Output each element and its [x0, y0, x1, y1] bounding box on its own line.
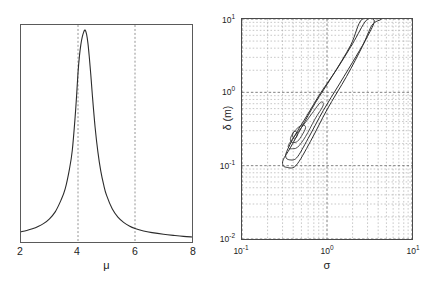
contour-lines [283, 19, 382, 168]
right-ytick-2: 10-1 [213, 159, 235, 171]
left-xtick-1: 4 [65, 245, 89, 257]
contour-level-5 [283, 19, 382, 168]
right-xaxis-label: σ [241, 259, 413, 271]
left-plot-area [21, 25, 192, 242]
right-plot-frame [241, 18, 413, 240]
left-xtick-2: 6 [123, 245, 147, 257]
right-plot-area [242, 19, 412, 239]
right-xtick-2: 101 [400, 244, 426, 256]
right-xtick-1: 100 [314, 244, 340, 256]
right-contour-svg [242, 19, 412, 239]
left-reference-lines [78, 25, 135, 242]
right-yaxis-label: δ (m) [221, 88, 233, 148]
left-xtick-3: 8 [181, 245, 205, 257]
left-xaxis-label: μ [20, 259, 193, 271]
left-plot-frame [20, 24, 193, 243]
density-curve [21, 30, 192, 237]
right-ytick-3: 10-2 [213, 232, 235, 244]
left-curve-svg [21, 25, 192, 242]
contour-level-4 [286, 19, 375, 160]
left-xtick-0: 2 [8, 245, 32, 257]
figure-root: 2 4 6 8 μ 101 100 10-1 10-2 10-1 100 101… [0, 0, 429, 285]
left-panel: 2 4 6 8 μ [0, 0, 215, 285]
right-ytick-0: 101 [213, 13, 235, 25]
right-panel: 101 100 10-1 10-2 10-1 100 101 σ δ (m) [215, 0, 429, 285]
right-xtick-0: 10-1 [228, 244, 254, 256]
